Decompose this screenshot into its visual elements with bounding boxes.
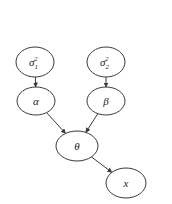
- node-label: β: [102, 95, 109, 107]
- node-label: θ: [74, 140, 80, 152]
- edge-alpha-to-theta: [47, 113, 66, 134]
- node-beta: β: [87, 87, 125, 115]
- graphical-model-diagram: σ12 σ22 α β θ x: [0, 0, 172, 204]
- node-label: α: [33, 95, 39, 107]
- edge-theta-to-x: [91, 157, 111, 172]
- node-sigma1-squared: σ12: [16, 47, 54, 77]
- node-theta: θ: [56, 131, 98, 161]
- node-x: x: [106, 168, 146, 198]
- node-label: x: [123, 177, 129, 189]
- node-sigma2-squared: σ22: [87, 47, 125, 77]
- node-alpha: α: [17, 87, 55, 115]
- edge-beta-to-theta: [86, 114, 98, 133]
